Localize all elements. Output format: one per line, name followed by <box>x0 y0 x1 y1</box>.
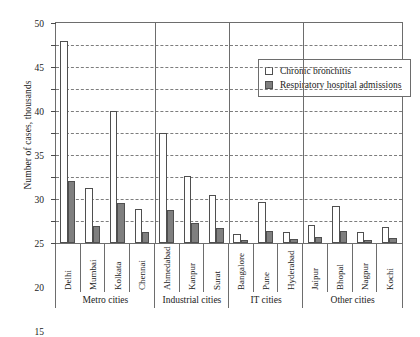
x-axis-group-cell: Metro cities <box>55 292 155 308</box>
x-axis-category-cell: Bhopal <box>327 244 353 292</box>
x-axis-category-label: Delhi <box>63 270 73 290</box>
bar <box>258 202 265 243</box>
y-axis-tick-label: 20 <box>35 283 45 293</box>
bar-group <box>353 23 378 243</box>
bar-group <box>328 23 353 243</box>
y-axis-tick-label: 45 <box>35 63 45 73</box>
x-axis-category-cell: Nagpur <box>352 244 378 292</box>
x-axis-category-label: Pune <box>261 272 271 290</box>
x-axis-group-cell: Industrial cities <box>154 292 229 308</box>
bar <box>191 223 198 243</box>
bar <box>290 239 297 243</box>
y-axis-tick-label: 15 <box>35 327 45 337</box>
bar-group <box>254 23 279 243</box>
x-axis-group-cell: Other cities <box>302 292 403 308</box>
x-axis-category-cell: Ahmedabad <box>154 244 180 292</box>
bar <box>60 41 67 243</box>
x-axis-category-label: Hyderabad <box>286 251 296 290</box>
x-axis-category-cell: Chennai <box>129 244 155 292</box>
y-axis-tick-label: 50 <box>35 19 45 29</box>
bar-group <box>229 23 254 243</box>
x-axis-category-cell: Kolkata <box>104 244 130 292</box>
x-axis-category-cell: Mumbai <box>80 244 106 292</box>
bar <box>184 176 191 243</box>
x-axis-category-label: Mumbai <box>88 260 98 291</box>
bar <box>159 133 166 243</box>
bar <box>308 225 315 243</box>
bar <box>340 231 347 243</box>
x-axis-group-labels: Metro citiesIndustrial citiesIT citiesOt… <box>55 292 403 314</box>
bar <box>110 111 117 243</box>
bar-group <box>105 23 130 243</box>
x-axis-group-label: IT cities <box>250 295 281 305</box>
bar <box>117 203 124 243</box>
x-axis-category-label: Kanpur <box>187 263 197 290</box>
bar-group <box>81 23 106 243</box>
bar <box>332 206 339 243</box>
x-axis-category-cell: Pune <box>253 244 279 292</box>
bar <box>233 234 240 243</box>
bar-group <box>303 23 328 243</box>
bar <box>357 232 364 243</box>
bar-group <box>278 23 303 243</box>
plot-area: Chronic bronchitis Respiratory hospital … <box>55 22 403 244</box>
x-axis-category-label: Chennai <box>137 260 147 290</box>
x-axis-category-cell: Kochi <box>376 244 403 292</box>
bar <box>266 231 273 243</box>
bar <box>283 232 290 243</box>
bar <box>142 232 149 243</box>
x-axis-category-cell: Hyderabad <box>277 244 303 292</box>
x-axis-category-label: Ahmedabad <box>162 247 172 290</box>
x-axis-group-label: Other cities <box>331 295 375 305</box>
y-axis-tick-label: 25 <box>35 239 45 249</box>
bar <box>216 228 223 243</box>
x-axis-category-labels: DelhiMumbaiKolkataChennaiAhmedabadKanpur… <box>55 244 403 292</box>
bar-group <box>377 23 402 243</box>
x-axis-category-label: Surat <box>212 271 222 290</box>
x-axis-category-cell: Surat <box>203 244 229 292</box>
bar <box>68 181 75 243</box>
bar-group <box>204 23 229 243</box>
x-axis-group-label: Industrial cities <box>162 295 221 305</box>
bar <box>241 240 248 243</box>
x-axis-category-label: Jaipur <box>310 268 320 290</box>
bar <box>315 237 322 243</box>
bar <box>167 210 174 243</box>
bar <box>93 226 100 243</box>
x-axis-category-label: Kolkata <box>113 262 123 291</box>
x-axis-category-cell: Delhi <box>55 244 81 292</box>
bar <box>135 209 142 243</box>
y-axis-tick-label: 35 <box>35 151 45 161</box>
x-axis-group-cell: IT cities <box>228 292 303 308</box>
bar-group <box>155 23 180 243</box>
x-axis-category-label: Bangalore <box>236 253 246 290</box>
x-axis-group-label: Metro cities <box>83 295 129 305</box>
y-axis-title: Number of cases, thousands <box>23 45 33 225</box>
chart-root: Number of cases, thousands Chronic bronc… <box>0 0 420 337</box>
y-axis-tick-label: 30 <box>35 195 45 205</box>
bar <box>209 195 216 243</box>
bar <box>85 188 92 243</box>
y-axis-tick-label: 40 <box>35 107 45 117</box>
bar-group <box>130 23 155 243</box>
bar <box>389 238 396 243</box>
x-axis-category-label: Kochi <box>385 268 395 290</box>
bar <box>382 227 389 243</box>
bar <box>364 240 371 243</box>
x-axis-category-cell: Jaipur <box>302 244 328 292</box>
x-axis-category-label: Bhopal <box>335 264 345 290</box>
bar-group <box>56 23 81 243</box>
x-axis-category-cell: Bangalore <box>228 244 254 292</box>
x-axis-category-label: Nagpur <box>360 263 370 290</box>
bar-group <box>180 23 205 243</box>
x-axis-category-cell: Kanpur <box>179 244 205 292</box>
